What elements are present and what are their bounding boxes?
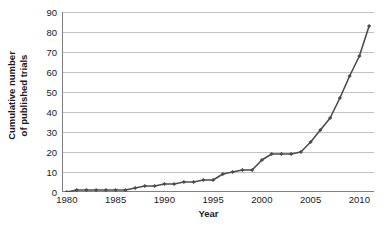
data-point-marker [172,182,176,186]
data-point-marker [367,24,371,28]
x-axis-tick-label: 1995 [203,194,224,205]
data-point-marker [240,168,244,172]
y-axis-tick-label: 80 [46,27,57,38]
chart-figure: Cumulative number of published trials 01… [0,0,386,234]
data-point-marker [279,152,283,156]
x-axis-tick-label: 1985 [105,194,126,205]
x-axis-tick-label: 2000 [251,194,272,205]
data-point-marker [182,180,186,184]
y-axis-tick-label: 50 [46,87,57,98]
x-axis-tick-label: 1980 [56,194,77,205]
y-axis-tick-labels: 0102030405060708090 [36,12,60,192]
x-axis-tick-label: 2005 [300,194,321,205]
grid-lines [62,12,374,192]
x-axis-tick-labels: 1980198519901995200020052010 [36,192,381,208]
y-axis-title: Cumulative number of published trials [0,0,34,190]
data-point-marker [133,186,137,190]
y-axis-tick-label: 90 [46,7,57,18]
line-chart-svg [62,12,374,192]
axis-lines [62,12,374,192]
plot-area-wrapper: 0102030405060708090 [36,12,381,192]
y-axis-tick-label: 60 [46,67,57,78]
data-point-marker [289,152,293,156]
y-axis-tick-label: 70 [46,47,57,58]
y-axis-title-line-2: of published trials [17,51,29,140]
x-axis-tick-marks [62,12,369,192]
data-point-markers [65,24,371,192]
y-axis-tick-label: 30 [46,127,57,138]
y-axis-tick-label: 40 [46,107,57,118]
data-point-marker [201,178,205,182]
x-axis-title: Year [36,208,381,219]
y-axis-tick-label: 10 [46,167,57,178]
y-axis-tick-label: 20 [46,147,57,158]
data-line [67,26,369,192]
data-point-marker [192,180,196,184]
data-point-marker [231,170,235,174]
y-axis-title-line-1: Cumulative number [6,51,18,140]
x-axis-tick-label: 1990 [154,194,175,205]
plot-area [62,12,374,192]
data-point-marker [153,184,157,188]
data-point-marker [143,184,147,188]
x-axis-tick-label: 2010 [349,194,370,205]
data-point-marker [162,182,166,186]
